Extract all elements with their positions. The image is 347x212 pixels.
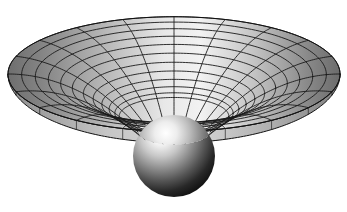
gravity-well-figure: Gravity well / spacetime curvature funne…	[0, 0, 347, 212]
gravity-well-diagram	[0, 0, 347, 212]
